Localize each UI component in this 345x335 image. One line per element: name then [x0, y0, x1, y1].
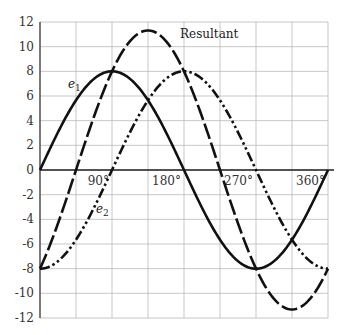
y-tick-label: 10 — [19, 40, 34, 54]
y-tick-label: 4 — [26, 114, 34, 128]
y-tick-label: -10 — [15, 286, 34, 300]
axes — [40, 22, 334, 318]
y-tick-label: 2 — [26, 138, 34, 152]
y-tick-label: -2 — [22, 188, 34, 202]
e1-label: e1 — [68, 77, 81, 93]
x-tick-label: 270° — [224, 174, 253, 188]
resultant-label: Resultant — [180, 27, 239, 41]
y-axis-tick-labels: 121086420-2-4-6-8-10-12 — [15, 15, 35, 325]
x-axis-tick-labels: 90°180°270°360° — [88, 174, 325, 188]
y-tick-label: -4 — [22, 212, 34, 226]
y-tick-label: -12 — [15, 311, 34, 325]
y-tick-label: 8 — [26, 64, 34, 78]
y-tick-label: -8 — [22, 262, 34, 276]
y-tick-label: -6 — [22, 237, 34, 251]
e2-label: e2 — [96, 202, 109, 218]
sine-wave-chart: 121086420-2-4-6-8-10-12 90°180°270°360° … — [0, 0, 345, 335]
y-tick-label: 6 — [26, 89, 34, 103]
x-tick-label: 180° — [152, 174, 181, 188]
y-tick-label: 0 — [26, 163, 34, 177]
y-tick-label: 12 — [19, 15, 34, 29]
